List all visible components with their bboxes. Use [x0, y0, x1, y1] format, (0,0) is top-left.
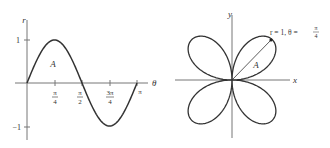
theta-axis-label: θ	[152, 78, 157, 88]
x-tick-num-pi2: π	[78, 89, 82, 97]
r-axis-label: r	[22, 15, 26, 25]
figure: r θ 1 −1 π 4 π 2 3π 4 π A x y A r = 1, θ…	[0, 0, 330, 148]
annotation-text: r = 1, θ =	[270, 28, 298, 37]
left-graph: r θ 1 −1 π 4 π 2 3π 4 π A	[12, 15, 157, 140]
annotation-frac-den: 4	[315, 33, 318, 39]
x-tick-label-pi: π	[138, 88, 142, 96]
x-tick-den-pi2: 2	[78, 98, 82, 106]
right-graph: x y A r = 1, θ = π 4	[175, 9, 319, 138]
x-tick-den-3pi4: 4	[108, 98, 112, 106]
x-tick-den-pi4: 4	[53, 98, 57, 106]
petal-tip-point	[269, 38, 272, 41]
x-tick-num-pi4: π	[53, 89, 57, 97]
x-axis-label: x	[292, 75, 297, 85]
y-axis-label: y	[227, 9, 232, 19]
y-tick-label-neg1: −1	[12, 123, 21, 132]
x-tick-num-3pi4: 3π	[106, 89, 114, 97]
radius-line	[232, 40, 271, 80]
y-tick-label-1: 1	[16, 36, 20, 45]
region-label-a: A	[252, 60, 259, 70]
region-label-a: A	[49, 59, 56, 69]
annotation-frac-num: π	[314, 25, 317, 31]
